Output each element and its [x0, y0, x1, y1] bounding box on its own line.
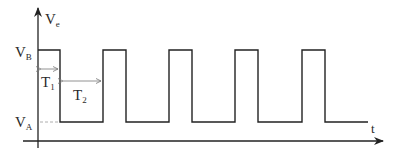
t2-label: T2: [73, 87, 87, 105]
va-label: VA: [15, 114, 33, 132]
vb-label: VB: [15, 44, 32, 62]
pulse-diagram: Ve VB VA T1 T2 t: [0, 0, 396, 157]
waveform-line: [38, 50, 368, 122]
x-axis-label: t: [371, 121, 375, 136]
t1-label: T1: [41, 74, 55, 92]
y-axis-label: Ve: [45, 11, 60, 29]
